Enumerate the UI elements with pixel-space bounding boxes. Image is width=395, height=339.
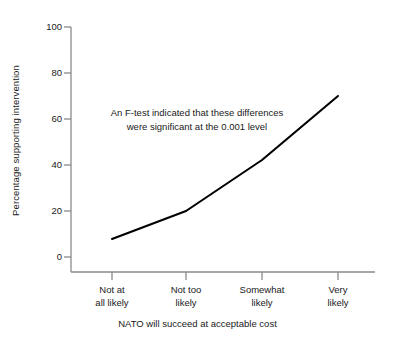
line-chart-figure: Percentage supporting intervention 100 8…	[0, 0, 395, 339]
y-tick-label-20: 20	[28, 205, 62, 216]
y-axis-title: Percentage supporting intervention	[4, 0, 26, 280]
x-axis-ticks	[112, 272, 338, 280]
x-tick-label-3: Very likely	[292, 283, 384, 309]
x-tick-label-3-line1: Very	[292, 283, 384, 296]
y-tick-label-60: 60	[28, 113, 62, 124]
y-axis-title-text: Percentage supporting intervention	[10, 65, 21, 216]
x-axis-title: NATO will succeed at acceptable cost	[0, 318, 395, 329]
y-tick-label-40: 40	[28, 159, 62, 170]
x-tick-label-3-line2: likely	[292, 296, 384, 309]
chart-annotation-line2: were significant at the 0.001 level	[80, 120, 314, 134]
y-tick-label-100: 100	[28, 21, 62, 32]
y-tick-label-80: 80	[28, 67, 62, 78]
chart-annotation-line1: An F-test indicated that these differenc…	[80, 106, 314, 120]
y-tick-label-0: 0	[28, 251, 62, 262]
y-axis-ticks	[64, 27, 71, 257]
chart-annotation-f-test: An F-test indicated that these differenc…	[80, 106, 314, 134]
